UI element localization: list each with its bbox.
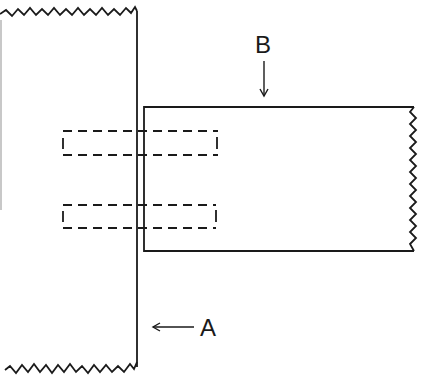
member-b-outline bbox=[144, 107, 414, 251]
label-b: B bbox=[255, 33, 271, 57]
joint-diagram: B A bbox=[0, 0, 422, 384]
member-b-right-break bbox=[410, 107, 416, 251]
scan-edge-shadow bbox=[0, 20, 2, 210]
member-a-top-break bbox=[0, 7, 137, 16]
member-a bbox=[0, 7, 137, 373]
callout-b-arrow-icon bbox=[260, 61, 268, 96]
callout-a-arrow-icon bbox=[153, 323, 194, 331]
label-a: A bbox=[200, 316, 216, 340]
member-b bbox=[144, 107, 416, 251]
dowel-lower bbox=[63, 205, 216, 228]
dowel-upper bbox=[63, 131, 218, 155]
member-a-bottom-break bbox=[5, 362, 137, 373]
